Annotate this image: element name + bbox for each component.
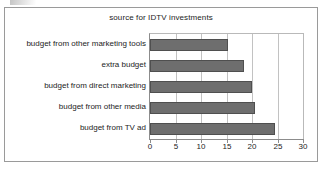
category-label: budget from other marketing tools bbox=[26, 39, 146, 49]
x-tick-label: 5 bbox=[166, 142, 186, 151]
x-tick-label: 15 bbox=[217, 142, 237, 151]
x-tick-label: 30 bbox=[293, 142, 313, 151]
bar bbox=[150, 81, 252, 93]
category-label: budget from other media bbox=[59, 102, 146, 112]
category-axis-labels: budget from other marketing toolsextra b… bbox=[11, 33, 146, 138]
bar bbox=[150, 102, 255, 114]
x-tick-label: 25 bbox=[268, 142, 288, 151]
category-label: budget from TV ad bbox=[80, 123, 146, 133]
x-tick-label: 0 bbox=[140, 142, 160, 151]
chart-frame: source for IDTV investments budget from … bbox=[4, 7, 318, 162]
x-tick-label: 10 bbox=[191, 142, 211, 151]
category-label: budget from direct marketing bbox=[44, 81, 146, 91]
category-label: extra budget bbox=[102, 60, 146, 70]
bar bbox=[150, 60, 244, 72]
chart-title: source for IDTV investments bbox=[5, 13, 317, 22]
x-tick-label: 20 bbox=[242, 142, 262, 151]
plot-area: 051015202530 bbox=[149, 33, 304, 140]
gridline bbox=[278, 34, 279, 139]
bar bbox=[150, 39, 228, 51]
scan-artifact bbox=[10, 0, 36, 5]
bar bbox=[150, 123, 275, 135]
